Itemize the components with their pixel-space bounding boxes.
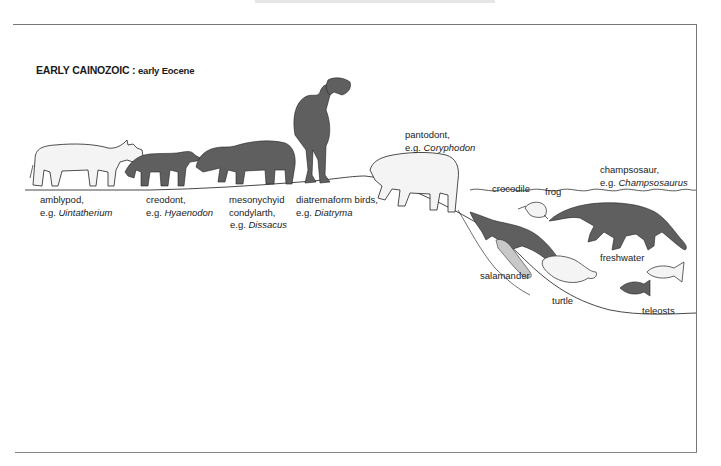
- diatryma-illustration: [294, 78, 351, 183]
- champsosaur-illustration: [549, 203, 686, 250]
- label-crocodile: crocodile: [492, 183, 530, 196]
- label-champsosaur: champsosaur, e.g. Champsosaurus: [600, 164, 688, 189]
- mesonychid-illustration: [196, 141, 295, 184]
- pantodont-illustration: [370, 152, 459, 212]
- label-frog: frog: [545, 186, 561, 199]
- label-turtle: turtle: [552, 295, 573, 308]
- turtle-illustration: [542, 256, 596, 283]
- label-diatremaform: diatremaform birds, e.g. Diatryma: [296, 194, 378, 219]
- teleost-dark-illustration: [620, 280, 650, 296]
- label-creodont: creodont, e.g. Hyaenodon: [146, 194, 213, 219]
- amblypod-illustration: [30, 140, 143, 186]
- scene-illustration: [0, 0, 721, 466]
- label-freshwater: freshwater: [600, 252, 644, 265]
- label-pantodont: pantodont, e.g. Coryphodon: [405, 129, 475, 154]
- frog-illustration: [518, 202, 548, 219]
- label-salamander: salamander: [480, 270, 530, 283]
- label-mesonychid: mesonychyid condylarth, e.g. Dissacus: [229, 194, 287, 232]
- label-amblypod: amblypod, e.g. Uintatherium: [40, 194, 112, 219]
- label-teleosts: teleosts: [642, 305, 675, 318]
- teleost-light-illustration: [647, 262, 684, 282]
